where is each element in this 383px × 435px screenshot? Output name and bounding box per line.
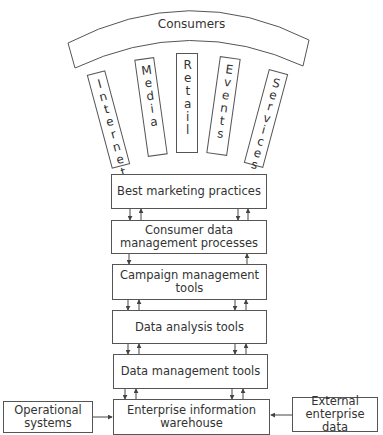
box-consumer-data-management-processes: Consumer data management processes <box>111 220 267 254</box>
operational-systems-label: Operational systems <box>14 404 81 430</box>
channel-retail-label: Retail <box>180 58 194 136</box>
box-data-analysis-tools: Data analysis tools <box>112 310 267 344</box>
best-marketing-practices-label: Best marketing practices <box>117 185 261 198</box>
campaign-management-tools-label: Campaign management tools <box>120 269 259 295</box>
data-management-tools-label: Data management tools <box>121 365 261 378</box>
box-enterprise-information-warehouse: Enterprise information warehouse <box>113 399 270 435</box>
consumers-label: Consumers <box>0 17 383 31</box>
box-best-marketing-practices: Best marketing practices <box>111 174 267 209</box>
box-campaign-management-tools: Campaign management tools <box>112 264 267 300</box>
box-operational-systems: Operational systems <box>3 401 93 433</box>
consumer-data-management-processes-label: Consumer data management processes <box>120 224 258 250</box>
channel-retail: Retail <box>176 53 198 153</box>
box-data-management-tools: Data management tools <box>113 354 268 389</box>
enterprise-information-warehouse-label: Enterprise information warehouse <box>127 404 256 430</box>
data-analysis-tools-label: Data analysis tools <box>135 321 244 334</box>
external-enterprise-data-label: External enterprise data <box>293 395 377 434</box>
box-external-enterprise-data: External enterprise data <box>292 397 378 432</box>
